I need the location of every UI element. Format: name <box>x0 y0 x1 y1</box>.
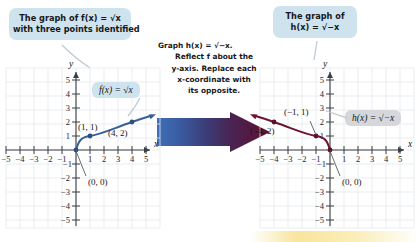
y-tick-label: −3 <box>61 187 70 197</box>
x-tick-label: −5 <box>255 154 264 164</box>
point-marker <box>130 120 135 125</box>
y-axis-arrowhead-left <box>73 72 79 78</box>
x-axis-label-left: x <box>153 139 159 149</box>
y-tick-label: −2 <box>315 173 324 183</box>
callout-graph-h-line2: h(x) = √−x <box>277 22 353 33</box>
graph-f-svg: −5 −4 −3 −2 −1 1 2 3 4 5 1 2 3 4 5 −1 −2… <box>0 58 172 236</box>
x-tick-label: 2 <box>356 154 360 164</box>
callout-graph-f: The graph of f(x) = √x with three points… <box>9 8 131 40</box>
x-axis-label-right: x <box>407 139 413 149</box>
point-label-neg1-1: (−1, 1) <box>284 107 309 117</box>
y-tick-label: −4 <box>61 201 71 211</box>
y-axis-label-right: y <box>322 59 328 69</box>
x-tick-label: 1 <box>88 154 92 164</box>
y-tick-label: −4 <box>315 201 325 211</box>
x-tick-label: −4 <box>269 154 279 164</box>
y-tick-label: 4 <box>320 89 325 99</box>
x-tick-label: 4 <box>130 154 135 164</box>
y-tick-label: −1 <box>317 159 326 169</box>
y-tick-label: −2 <box>61 173 70 183</box>
callout-graph-f-line1: The graph of f(x) = √x <box>13 13 127 24</box>
x-tick-label: −3 <box>29 154 38 164</box>
x-axis-arrowhead-right <box>398 147 404 153</box>
x-tick-label: −4 <box>15 154 25 164</box>
x-tick-label: 3 <box>370 154 374 164</box>
x-tick-label: 4 <box>384 154 389 164</box>
callout-graph-f-line2: with three points identified <box>13 24 127 35</box>
point-label-neg4-2: (−4, 2) <box>250 126 275 136</box>
point-label-4-2: (4, 2) <box>108 128 128 138</box>
graph-f-panel: −5 −4 −3 −2 −1 1 2 3 4 5 1 2 3 4 5 −1 −2… <box>0 58 172 236</box>
y-tick-label: −5 <box>315 215 324 225</box>
y-tick-label: 5 <box>320 75 324 85</box>
y-tick-label: 4 <box>66 89 71 99</box>
x-tick-label: −2 <box>43 154 52 164</box>
x-tick-label: 5 <box>398 154 402 164</box>
callout-graph-h: The graph of h(x) = √−x <box>273 6 357 38</box>
y-tick-label: 1 <box>66 131 70 141</box>
y-tick-label: 5 <box>66 75 70 85</box>
x-tick-label: −5 <box>1 154 10 164</box>
point-label-1-1: (1, 1) <box>78 122 98 132</box>
point-marker <box>88 134 93 139</box>
figure-canvas: The graph of f(x) = √x with three points… <box>0 0 420 242</box>
point-label-0-0: (0, 0) <box>88 177 108 187</box>
y-tick-label: 3 <box>320 103 324 113</box>
y-tick-label: −5 <box>61 215 70 225</box>
x-tick-label: 5 <box>144 154 148 164</box>
x-tick-label: 3 <box>116 154 120 164</box>
x-axis-arrowhead-left <box>144 147 150 153</box>
equation-label-h: h(x) = √−x <box>345 110 401 126</box>
x-tick-label: −3 <box>283 154 292 164</box>
y-tick-label: 2 <box>320 117 324 127</box>
equation-label-f: f(x) = √x <box>92 82 140 98</box>
callout-graph-h-line1: The graph of <box>277 11 353 22</box>
instruction-line-1: Graph h(x) = √−x. <box>158 40 270 51</box>
x-tick-label: 1 <box>342 154 346 164</box>
curve-f-arrowhead <box>149 114 157 119</box>
bottom-accent-band <box>250 231 420 242</box>
point-marker <box>272 120 277 125</box>
point-label-0-0: (0, 0) <box>342 177 362 187</box>
y-tick-label: 2 <box>66 117 70 127</box>
graph-h-svg: −5 −4 −3 −2 −1 1 2 3 4 5 1 2 3 4 5 −1 −2… <box>250 58 420 236</box>
y-tick-label: 3 <box>66 103 70 113</box>
grid-lines-right <box>260 68 414 228</box>
equation-label-f-leader <box>126 97 148 119</box>
curve-h-arrowhead <box>250 114 258 119</box>
x-tick-label: 2 <box>102 154 106 164</box>
y-axis-arrowhead-right <box>327 72 333 78</box>
y-tick-label: −1 <box>63 159 72 169</box>
equation-label-h-leader <box>325 110 349 126</box>
x-tick-label: −2 <box>297 154 306 164</box>
point-leader-neg1 <box>310 121 316 135</box>
y-tick-label: −3 <box>315 187 324 197</box>
graph-h-panel: −5 −4 −3 −2 −1 1 2 3 4 5 1 2 3 4 5 −1 −2… <box>250 58 420 236</box>
y-axis-label-left: y <box>68 59 74 69</box>
